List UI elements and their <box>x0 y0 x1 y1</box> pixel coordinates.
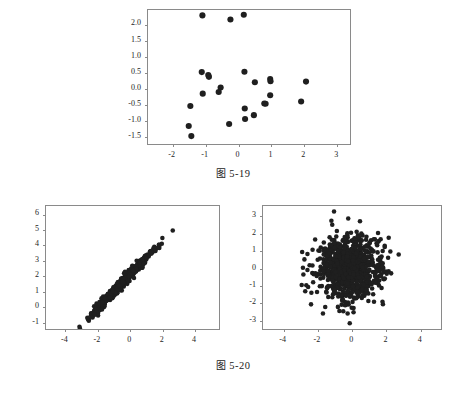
y-tick <box>145 121 148 122</box>
caption-number-5-20: 5-20 <box>229 360 250 371</box>
figure-5-20: -10123456-4-2024 -3-2-10123-4-2024 图 5-2… <box>0 190 466 398</box>
y-tick <box>43 292 46 293</box>
y-tick-label: -1.5 <box>113 132 141 140</box>
caption-label-5-20: 图 <box>216 360 227 371</box>
x-tick <box>173 144 174 147</box>
scatter-points-5-20-right <box>263 206 441 329</box>
x-tick <box>163 329 164 332</box>
y-tick-label: 1.0 <box>113 52 141 60</box>
x-tick-label: 3 <box>334 151 338 159</box>
x-tick-label: 0 <box>235 151 239 159</box>
y-tick <box>43 276 46 277</box>
y-tick <box>260 286 263 287</box>
y-tick <box>145 57 148 58</box>
plot-area-5-19 <box>148 10 350 144</box>
y-tick-label: 2.0 <box>113 19 141 27</box>
y-tick <box>145 89 148 90</box>
x-tick-label: 1 <box>268 151 272 159</box>
x-tick <box>421 329 422 332</box>
y-tick <box>145 73 148 74</box>
y-tick-label: -3 <box>228 316 256 324</box>
scatter-plot-5-19 <box>147 9 351 145</box>
y-tick-label: 1.5 <box>113 36 141 44</box>
y-tick <box>145 25 148 26</box>
x-tick <box>304 144 305 147</box>
x-tick <box>195 329 196 332</box>
scatter-plot-5-20-right <box>262 205 442 330</box>
y-tick-label: 4 <box>11 240 39 248</box>
y-tick <box>260 234 263 235</box>
y-tick <box>260 269 263 270</box>
y-tick-label: -0.5 <box>113 100 141 108</box>
y-tick-label: 0 <box>11 302 39 310</box>
x-tick-label: 2 <box>160 336 164 344</box>
x-tick-label: -2 <box>314 336 321 344</box>
plot-area-5-20-right <box>263 206 441 329</box>
y-tick-label: -1 <box>228 281 256 289</box>
y-tick-label: 6 <box>11 209 39 217</box>
y-tick <box>43 215 46 216</box>
x-tick <box>337 144 338 147</box>
x-tick <box>65 329 66 332</box>
x-tick-label: 0 <box>127 336 131 344</box>
caption-5-20: 图 5-20 <box>0 357 466 372</box>
scatter-points-5-20-left <box>46 206 219 329</box>
y-tick-label: -1.0 <box>113 116 141 124</box>
x-tick <box>318 329 319 332</box>
y-tick <box>43 323 46 324</box>
y-tick-label: 5 <box>11 225 39 233</box>
y-tick-label: 3 <box>11 256 39 264</box>
x-tick <box>284 329 285 332</box>
x-tick-label: 2 <box>301 151 305 159</box>
y-tick <box>145 41 148 42</box>
x-tick <box>271 144 272 147</box>
y-tick-label: 0.0 <box>113 84 141 92</box>
figure-5-19: -1.5-1.0-0.50.00.51.01.52.0-2-10123 图 5-… <box>0 0 466 190</box>
scatter-points-5-19 <box>148 10 350 144</box>
y-tick-label: 2 <box>11 271 39 279</box>
y-tick-label: 1 <box>228 246 256 254</box>
scatter-plot-5-20-left <box>45 205 220 330</box>
y-tick-label: 0 <box>228 264 256 272</box>
y-tick <box>43 307 46 308</box>
x-tick <box>206 144 207 147</box>
x-tick-label: -2 <box>168 151 175 159</box>
y-tick <box>260 303 263 304</box>
y-tick <box>260 216 263 217</box>
y-tick-label: 3 <box>228 211 256 219</box>
x-tick-label: -4 <box>61 336 68 344</box>
x-tick-label: -2 <box>94 336 101 344</box>
y-tick-label: -2 <box>228 298 256 306</box>
x-tick <box>239 144 240 147</box>
y-tick <box>145 105 148 106</box>
y-tick <box>145 137 148 138</box>
y-tick-label: 2 <box>228 229 256 237</box>
x-tick <box>98 329 99 332</box>
y-tick <box>43 230 46 231</box>
y-tick <box>260 251 263 252</box>
caption-label-5-19: 图 <box>216 168 227 179</box>
caption-5-19: 图 5-19 <box>0 165 466 180</box>
caption-number-5-19: 5-19 <box>229 168 250 179</box>
y-tick-label: 1 <box>11 287 39 295</box>
y-tick-label: -1 <box>11 318 39 326</box>
x-tick <box>352 329 353 332</box>
x-tick-label: 2 <box>383 336 387 344</box>
x-tick <box>130 329 131 332</box>
x-tick-label: -4 <box>279 336 286 344</box>
x-tick <box>386 329 387 332</box>
x-tick-label: -1 <box>201 151 208 159</box>
x-tick-label: 4 <box>418 336 422 344</box>
x-tick-label: 4 <box>192 336 196 344</box>
y-tick <box>260 321 263 322</box>
y-tick <box>43 245 46 246</box>
plot-area-5-20-left <box>46 206 219 329</box>
y-tick <box>43 261 46 262</box>
x-tick-label: 0 <box>349 336 353 344</box>
y-tick-label: 0.5 <box>113 68 141 76</box>
